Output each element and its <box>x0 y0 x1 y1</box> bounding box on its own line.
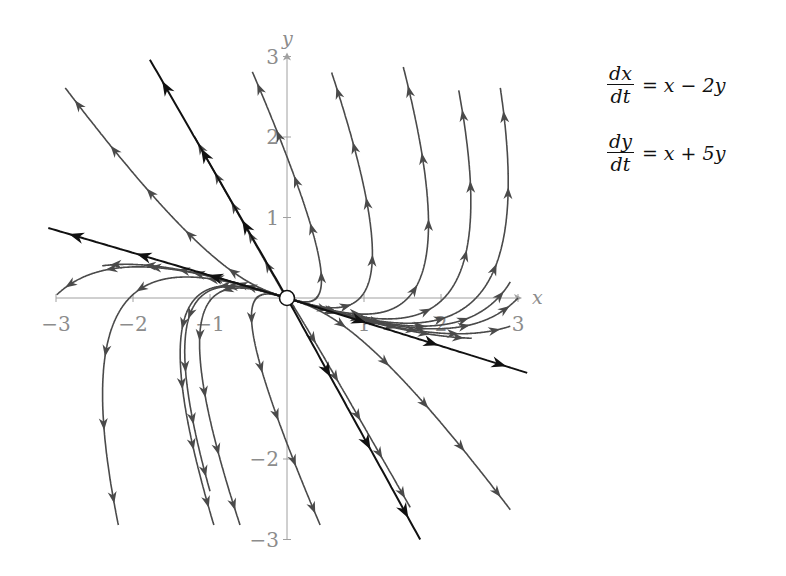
x-tick-label: −2 <box>118 312 147 336</box>
direction-arrow-icon <box>287 453 300 467</box>
y-tick-label: −3 <box>250 528 279 552</box>
direction-arrow-icon <box>237 217 254 236</box>
dy-rhs: = x + 5y <box>642 142 726 164</box>
direction-arrow-icon <box>488 325 502 336</box>
direction-arrow-icon <box>403 84 415 98</box>
direction-arrow-icon <box>63 277 78 291</box>
direction-arrow-icon <box>135 248 153 263</box>
dx-rhs: = x − 2y <box>642 74 726 96</box>
direction-arrow-icon <box>67 229 85 244</box>
equation-dx: dxdt = x − 2y <box>607 62 725 107</box>
trajectory <box>290 299 510 510</box>
eigen-line <box>150 60 287 298</box>
direction-arrow-icon <box>255 360 267 374</box>
y-axis-label: y <box>281 27 293 49</box>
x-tick-label: −3 <box>41 312 70 336</box>
direction-arrow-icon <box>306 222 318 236</box>
direction-arrow-icon <box>253 81 266 96</box>
trajectory <box>290 67 429 314</box>
direction-arrow-icon <box>348 141 360 155</box>
direction-arrow-icon <box>201 495 213 509</box>
equilibrium-point <box>280 291 295 306</box>
trajectory <box>252 294 321 525</box>
direction-arrow-icon <box>290 174 303 188</box>
direction-arrow-icon <box>227 497 239 511</box>
axes: xy−3−2−1123321−2−3 <box>41 27 543 552</box>
direction-arrow-icon <box>134 281 149 295</box>
trajectory <box>290 88 508 323</box>
direction-arrow-icon <box>459 249 471 263</box>
direction-arrow-icon <box>488 262 501 277</box>
direction-arrow-icon <box>270 408 283 422</box>
x-tick-label: 3 <box>512 312 525 336</box>
direction-arrow-icon <box>422 335 440 350</box>
dy-denominator: dt <box>609 153 633 175</box>
direction-arrow-icon <box>362 197 373 210</box>
trajectory <box>290 73 372 308</box>
direction-arrow-icon <box>457 321 470 332</box>
y-tick-label: 3 <box>266 45 279 69</box>
direction-arrow-icon <box>334 317 349 331</box>
direction-arrow-icon <box>157 78 174 97</box>
direction-arrow-icon <box>339 300 353 312</box>
direction-arrow-icon <box>407 283 421 298</box>
direction-arrow-icon <box>332 86 344 100</box>
direction-arrow-icon <box>396 502 413 521</box>
equation-dy: dydt = x + 5y <box>607 130 725 175</box>
y-tick-label: −2 <box>250 447 279 471</box>
dy-numerator: dy <box>607 130 634 153</box>
direction-arrow-icon <box>419 304 434 317</box>
x-axis-label: x <box>532 286 543 308</box>
trajectory <box>290 90 471 319</box>
direction-arrow-icon <box>226 265 241 279</box>
direction-arrow-icon <box>490 357 508 372</box>
dx-numerator: dx <box>607 62 634 85</box>
dx-denominator: dt <box>609 85 633 107</box>
direction-arrow-icon <box>306 501 319 516</box>
y-tick-label: 1 <box>266 206 279 230</box>
trajectory <box>102 264 284 297</box>
direction-arrow-icon <box>196 146 213 165</box>
direction-arrow-icon <box>211 442 223 456</box>
